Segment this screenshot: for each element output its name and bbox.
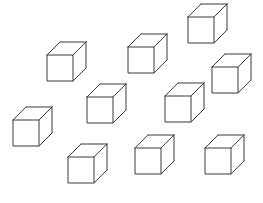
cube-6 (165, 83, 204, 122)
cube-7 (13, 107, 52, 146)
cube-front-face (212, 67, 238, 93)
cube-4 (212, 54, 251, 93)
cube-10 (205, 135, 244, 174)
cube-9 (135, 135, 174, 174)
cube-scene (0, 0, 263, 203)
cube-front-face (135, 148, 161, 174)
cube-front-face (68, 157, 94, 183)
cube-3 (188, 4, 227, 43)
cube-5 (87, 84, 126, 123)
cube-2 (128, 34, 167, 73)
cube-1 (47, 42, 86, 81)
cube-front-face (165, 96, 191, 122)
cube-8 (68, 144, 107, 183)
cube-array-svg (0, 0, 263, 203)
cube-front-face (13, 120, 39, 146)
cube-front-face (87, 97, 113, 123)
cube-front-face (47, 55, 73, 81)
cube-front-face (128, 47, 154, 73)
cube-front-face (205, 148, 231, 174)
cube-front-face (188, 17, 214, 43)
